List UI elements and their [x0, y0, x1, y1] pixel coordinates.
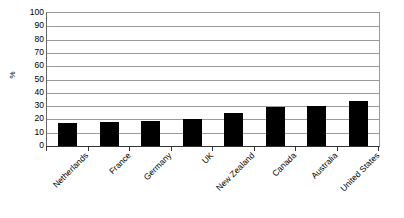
x-category-label: Netherlands	[52, 151, 90, 189]
bar-slot	[213, 13, 255, 146]
x-category-label: Germany	[142, 151, 173, 182]
bar[interactable]	[141, 121, 160, 146]
y-tick-label: 50	[35, 74, 44, 83]
x-category-label: UK	[201, 151, 215, 165]
y-tick-label: 10	[35, 127, 44, 136]
x-category-label: United States	[339, 151, 381, 193]
y-tick-label: 70	[35, 48, 44, 57]
bar[interactable]	[266, 107, 285, 146]
y-tick-label: 20	[35, 114, 44, 123]
plot-area	[46, 12, 380, 147]
bar-chart: % 1009080706050403020100 NetherlandsFran…	[0, 0, 404, 218]
bar[interactable]	[183, 119, 202, 146]
bar[interactable]	[224, 113, 243, 146]
bar-slot	[296, 13, 338, 146]
x-axis-category-labels: NetherlandsFranceGermanyUKNew ZealandCan…	[46, 151, 378, 211]
y-tick-label: 0	[39, 141, 44, 150]
bar-slot	[130, 13, 172, 146]
y-tick-label: 60	[35, 61, 44, 70]
x-category-label: Canada	[271, 151, 298, 178]
x-category-label: Australia	[310, 151, 339, 180]
bar[interactable]	[58, 123, 77, 146]
x-category-label: New Zealand	[215, 151, 256, 192]
bar[interactable]	[349, 101, 368, 146]
bar[interactable]	[100, 122, 119, 146]
y-tick-label: 30	[35, 101, 44, 110]
y-tick-label: 100	[30, 8, 44, 17]
bar-slot	[172, 13, 214, 146]
y-tick-label: 40	[35, 88, 44, 97]
bar-slot	[255, 13, 297, 146]
bar-slot	[338, 13, 380, 146]
bar[interactable]	[307, 106, 326, 146]
y-axis-tick-labels: 1009080706050403020100	[18, 12, 44, 145]
y-tick-label: 80	[35, 34, 44, 43]
x-tick	[378, 146, 379, 151]
x-category-label: France	[107, 151, 132, 176]
bars-layer	[47, 13, 379, 146]
y-tick-label: 90	[35, 21, 44, 30]
bar-slot	[89, 13, 131, 146]
bar-slot	[47, 13, 89, 146]
